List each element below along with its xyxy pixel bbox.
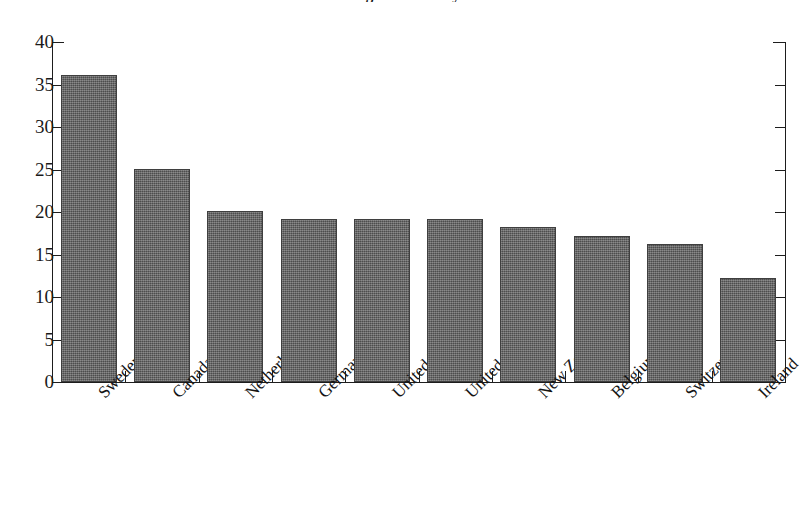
bar [61, 75, 117, 382]
x-axis-tick [345, 371, 346, 382]
chart-title: at the Highest Literacy Level [0, 0, 808, 2]
x-axis-tick [712, 371, 713, 382]
y-axis-tick-label: 10 [12, 287, 54, 306]
x-axis-tick [272, 371, 273, 382]
bar [574, 236, 630, 382]
bar-chart-figure: at the Highest Literacy Level 0510152025… [0, 0, 808, 505]
y-axis-tick-label: 0 [12, 372, 54, 391]
y-axis-tick [53, 42, 63, 43]
bar [134, 169, 190, 382]
x-axis-tick [492, 371, 493, 382]
right-axis-line [785, 42, 786, 383]
bar [720, 278, 776, 382]
y-axis-tick-right [775, 212, 785, 213]
y-axis-tick-right [775, 170, 785, 171]
y-axis-tick-right [775, 42, 785, 43]
y-axis-tick [53, 382, 63, 383]
y-axis-tick-right [775, 85, 785, 86]
x-axis-tick [125, 371, 126, 382]
bar [427, 219, 483, 382]
bar [207, 211, 263, 382]
y-axis-tick-label: 15 [12, 245, 54, 264]
x-axis-tick [199, 371, 200, 382]
bar [500, 227, 556, 382]
x-axis-tick [638, 371, 639, 382]
y-axis-tick-label: 40 [12, 32, 54, 51]
bar [354, 219, 410, 382]
y-axis-tick-label: 5 [12, 330, 54, 349]
y-axis-tick-right [775, 255, 785, 256]
bar [281, 219, 337, 382]
y-axis-tick-label: 30 [12, 117, 54, 136]
y-axis-tick-label: 20 [12, 202, 54, 221]
y-axis-tick-right [775, 127, 785, 128]
y-axis-tick-right [775, 297, 785, 298]
x-axis-tick [565, 371, 566, 382]
y-axis-tick-right [775, 340, 785, 341]
y-axis-tick-label: 35 [12, 75, 54, 94]
bar [647, 244, 703, 382]
y-axis-tick-label: 25 [12, 160, 54, 179]
x-axis-tick [419, 371, 420, 382]
